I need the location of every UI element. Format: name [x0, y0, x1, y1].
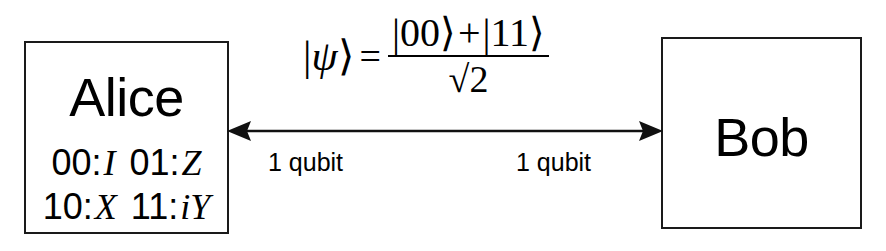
code-row: 00:I 01:Z — [32, 145, 221, 189]
code-entry-10: 10:X — [43, 189, 117, 225]
code-colon: : — [170, 145, 180, 181]
code-entry-00: 00:I — [51, 145, 115, 181]
ket-00: |00⟩ — [392, 10, 456, 55]
state-ket-psi: |ψ⟩ — [303, 35, 354, 77]
code-operator: iY — [180, 189, 210, 225]
code-colon: : — [83, 189, 93, 225]
ket-angle: ⟩ — [338, 33, 354, 79]
code-bits: 00 — [51, 145, 91, 181]
code-bits: 11 — [131, 189, 168, 225]
alice-label: Alice — [26, 70, 227, 124]
fraction-numerator: |00⟩+|11⟩ — [388, 12, 549, 55]
code-bits: 01 — [129, 145, 169, 181]
channel-label-right: 1 qubit — [516, 150, 591, 175]
equals-sign: = — [360, 37, 381, 75]
code-bits: 10 — [43, 189, 83, 225]
entangled-state-formula: |ψ⟩ = |00⟩+|11⟩ √2 — [303, 12, 549, 101]
code-operator: I — [103, 145, 115, 181]
channel-label-left: 1 qubit — [268, 150, 343, 175]
code-operator: X — [95, 189, 117, 225]
superdense-coding-diagram: Alice 00:I 01:Z 10:X 11:iY Bob — [0, 0, 886, 251]
code-entry-11: 11:iY — [131, 189, 210, 225]
code-entry-01: 01:Z — [129, 145, 201, 181]
plus-sign: + — [458, 10, 481, 55]
state-fraction: |00⟩+|11⟩ √2 — [388, 12, 549, 101]
code-row: 10:X 11:iY — [32, 189, 221, 233]
psi-symbol: ψ — [311, 33, 337, 79]
code-colon: : — [168, 189, 178, 225]
bob-label: Bob — [663, 110, 860, 164]
alice-decoding-table: 00:I 01:Z 10:X 11:iY — [26, 145, 227, 233]
bob-party-box: Bob — [661, 37, 862, 229]
alice-party-box: Alice 00:I 01:Z 10:X 11:iY — [24, 41, 229, 234]
code-operator: Z — [182, 145, 202, 181]
ket-11: |11⟩ — [483, 10, 546, 55]
code-colon: : — [91, 145, 101, 181]
fraction-denominator: √2 — [449, 57, 489, 101]
double-headed-arrow-icon — [227, 118, 663, 144]
